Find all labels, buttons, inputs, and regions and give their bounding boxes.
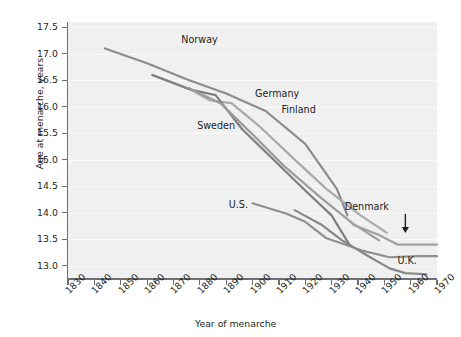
- y-tick-mark: [62, 265, 67, 266]
- chart-figure: NorwaySwedenGermanyFinlandU.S.DenmarkU.K…: [0, 0, 461, 337]
- y-tick-mark: [62, 186, 67, 187]
- y-tick-label: 17.5: [18, 21, 58, 32]
- y-tick-label: 13.5: [18, 233, 58, 244]
- x-axis-title: Year of menarche: [195, 318, 276, 329]
- y-tick-label: 14.0: [18, 207, 58, 218]
- y-tick-mark: [62, 106, 67, 107]
- y-tick-mark: [62, 133, 67, 134]
- y-tick-mark: [62, 239, 67, 240]
- y-tick-mark: [62, 27, 67, 28]
- y-axis-title: Age at menarche, years: [34, 58, 45, 169]
- plot-area: NorwaySwedenGermanyFinlandU.S.DenmarkU.K…: [68, 22, 437, 279]
- y-tick-mark: [62, 159, 67, 160]
- y-axis-line: [67, 22, 68, 279]
- y-tick-mark: [62, 80, 67, 81]
- y-tick-label: 14.5: [18, 180, 58, 191]
- y-tick-label: 13.0: [18, 260, 58, 271]
- y-tick-mark: [62, 212, 67, 213]
- denmark-arrow-icon: [68, 22, 437, 279]
- y-tick-mark: [62, 53, 67, 54]
